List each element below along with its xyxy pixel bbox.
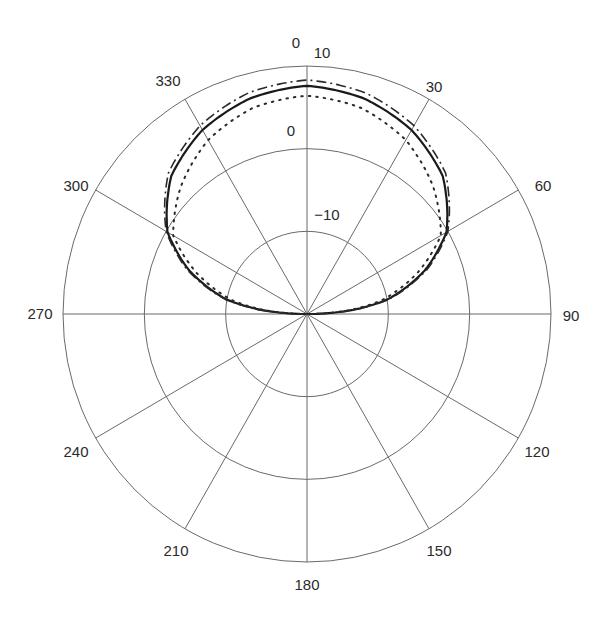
angle-label-0: 0 <box>292 34 300 51</box>
angle-label-300: 300 <box>63 177 88 194</box>
angle-label-150: 150 <box>426 542 451 559</box>
angle-label-90: 90 <box>563 307 580 324</box>
ring-label: −10 <box>314 206 339 223</box>
ring-label: 10 <box>314 44 331 61</box>
spoke-210 <box>185 314 307 529</box>
angle-label-180: 180 <box>294 576 319 593</box>
angle-label-210: 210 <box>163 542 188 559</box>
spoke-150 <box>307 314 429 529</box>
spoke-120 <box>307 314 518 438</box>
angle-label-60: 60 <box>535 177 552 194</box>
angle-label-240: 240 <box>63 443 88 460</box>
angle-label-330: 330 <box>155 72 180 89</box>
polar-chart: 0306090120150180210240270300330100−10 <box>0 0 604 622</box>
angle-label-30: 30 <box>426 78 443 95</box>
ring-label: 0 <box>287 122 295 139</box>
angle-label-270: 270 <box>27 305 52 322</box>
spoke-240 <box>96 314 307 438</box>
angle-label-120: 120 <box>524 443 549 460</box>
spoke-300 <box>96 190 307 314</box>
